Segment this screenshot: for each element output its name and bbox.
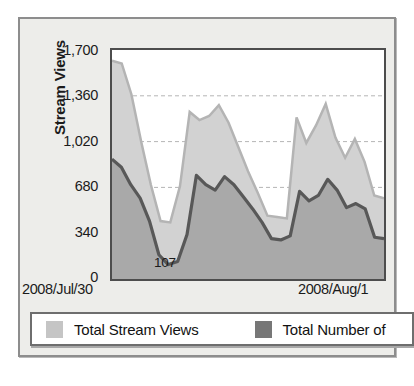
y-tick-1360: 1,360	[32, 88, 98, 103]
legend-label-total-stream-views: Total Stream Views	[74, 321, 199, 338]
chart-svg	[112, 50, 384, 279]
data-label-min: 107	[154, 255, 176, 270]
y-tick-340: 340	[32, 225, 98, 240]
legend-swatch-icon	[46, 321, 63, 338]
y-tick-1700: 1,700	[32, 43, 98, 58]
legend-label-total-number-of: Total Number of	[283, 321, 386, 338]
legend-swatch-icon	[255, 321, 272, 338]
y-tick-680: 680	[32, 179, 98, 194]
legend-item-total-number-of[interactable]: Total Number of	[255, 321, 386, 338]
chart-screenshot: Stream Views 1,700 1,360 1,020 680 340 0	[0, 0, 414, 386]
legend-item-total-stream-views[interactable]: Total Stream Views	[46, 321, 199, 338]
chart-legend: Total Stream Views Total Number of	[30, 312, 414, 346]
y-axis-tick-labels: 1,700 1,360 1,020 680 340 0	[26, 19, 98, 355]
plot-area: 107	[110, 48, 386, 281]
x-tick-end: 2008/Aug/1	[298, 281, 368, 297]
y-tick-1020: 1,020	[32, 134, 98, 149]
x-tick-start: 2008/Jul/30	[22, 281, 93, 297]
chart-panel: Stream Views 1,700 1,360 1,020 680 340 0	[18, 17, 396, 357]
